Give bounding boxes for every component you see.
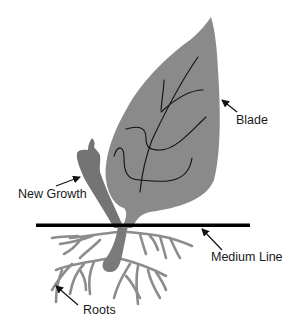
leaf-blade <box>106 17 220 228</box>
roots-label: Roots <box>83 304 116 317</box>
plant-illustration <box>0 0 296 329</box>
medium-line-arrow <box>202 229 222 250</box>
new-growth-arrow <box>56 177 80 186</box>
medium-line-label: Medium Line <box>211 251 283 264</box>
medium-line <box>36 224 250 228</box>
roots-arrow <box>56 286 78 305</box>
blade-label: Blade <box>236 114 268 127</box>
plant-diagram: Blade New Growth Medium Line Roots <box>0 0 296 329</box>
blade-arrow <box>222 100 237 112</box>
new-growth-label: New Growth <box>18 188 87 201</box>
